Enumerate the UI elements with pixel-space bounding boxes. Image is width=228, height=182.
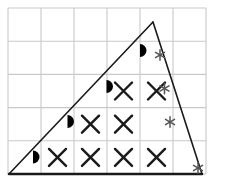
marker-cross-r4c3 [82,149,99,166]
half-moon-icon-r3c1 [33,151,40,164]
marker-cross-r3c3 [82,116,99,133]
marker-cross-r4c2 [49,149,66,166]
marker-cross-r1c5 [148,83,165,100]
marker-cross-r4c4 [115,149,132,166]
half-moon-icon-r0c4 [140,44,147,57]
triangle-right-edge [153,22,202,174]
marker-cross-r3c4 [115,116,132,133]
half-moon-icon-r1c3 [107,80,114,93]
grid-triangle-figure [0,0,228,182]
marker-cross-r2c4 [115,83,132,100]
half-moon-icon-r2c2 [68,115,75,128]
cell-markers [33,44,203,173]
marker-cross-r4c5 [148,149,165,166]
figure-canvas [0,0,228,182]
